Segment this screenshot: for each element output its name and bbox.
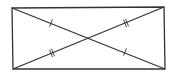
diagram-canvas (0, 0, 188, 82)
rectangle-diagonals-figure (0, 0, 188, 82)
